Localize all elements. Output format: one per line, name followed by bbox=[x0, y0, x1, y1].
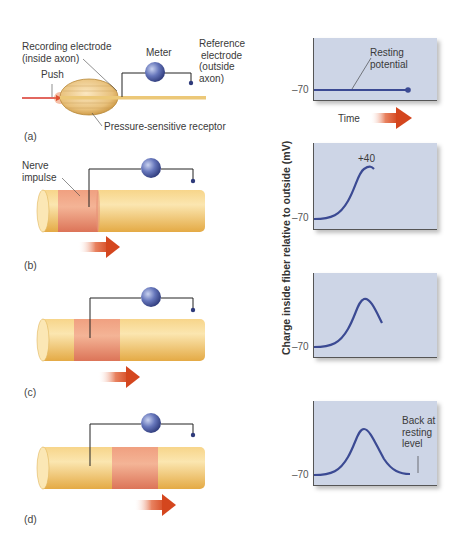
y-tick-a: –70 bbox=[292, 84, 309, 95]
recording-electrode-line1: Recording electrode bbox=[22, 41, 112, 53]
graph-c bbox=[313, 273, 437, 358]
time-label: Time bbox=[338, 113, 360, 125]
panel-d-drawing bbox=[37, 413, 205, 516]
y-axis-label: Charge inside fiber relative to outside … bbox=[280, 141, 292, 355]
meter-label: Meter bbox=[146, 47, 172, 59]
nerve-impulse-region bbox=[58, 190, 98, 232]
panel-label-b: (b) bbox=[24, 259, 37, 271]
axon-fiber bbox=[60, 96, 206, 100]
meter-icon bbox=[141, 287, 161, 307]
y-tick-d: –70 bbox=[292, 469, 309, 480]
nerve-impulse-line1: Nerve bbox=[22, 160, 56, 172]
graph-d: Back at resting level bbox=[313, 401, 437, 486]
graph-c-trace bbox=[314, 273, 437, 357]
panel-label-c: (c) bbox=[24, 386, 36, 398]
resting-potential-line2: potential bbox=[370, 59, 408, 71]
recording-electrode-label: Recording electrode (inside axon) bbox=[22, 41, 112, 64]
y-tick-c: –70 bbox=[292, 341, 309, 352]
direction-arrow bbox=[78, 242, 110, 252]
time-arrow-head bbox=[396, 107, 412, 129]
meter-icon bbox=[141, 413, 161, 433]
recording-electrode-line2: (inside axon) bbox=[22, 53, 112, 65]
back-at-resting-line1: Back at bbox=[402, 415, 435, 427]
peak-label: +40 bbox=[358, 153, 375, 165]
back-at-resting-label: Back at resting level bbox=[402, 415, 435, 450]
nerve-impulse-region bbox=[112, 447, 158, 489]
reference-electrode-line3: (outside bbox=[199, 61, 245, 73]
nerve-impulse-line2: impulse bbox=[22, 172, 56, 184]
panel-b-drawing bbox=[37, 158, 205, 258]
meter-icon bbox=[145, 62, 165, 82]
time-arrow bbox=[370, 113, 398, 123]
direction-arrow bbox=[134, 500, 166, 510]
y-tick-b: –70 bbox=[292, 212, 309, 223]
direction-arrow bbox=[98, 372, 130, 382]
reference-electrode-tip bbox=[189, 81, 193, 85]
receptor-label: Pressure-sensitive receptor bbox=[104, 121, 226, 133]
reference-electrode-line1: Reference bbox=[199, 38, 245, 50]
graph-b-trace bbox=[314, 143, 437, 229]
resting-potential-line1: Resting bbox=[370, 47, 408, 59]
nerve-impulse-label: Nerve impulse bbox=[22, 160, 56, 183]
back-at-resting-line2: resting bbox=[402, 427, 435, 439]
reference-electrode-line4: axon) bbox=[199, 73, 245, 85]
panel-c-drawing bbox=[37, 287, 205, 388]
nerve-impulse-region bbox=[74, 319, 120, 361]
push-label: Push bbox=[41, 69, 64, 81]
panel-label-d: (d) bbox=[24, 513, 37, 525]
graph-a: Resting potential bbox=[313, 38, 437, 101]
meter-icon bbox=[141, 158, 161, 178]
graph-b: +40 bbox=[313, 143, 437, 230]
back-at-resting-line3: level bbox=[402, 438, 435, 450]
reference-electrode-label: Reference electrode (outside axon) bbox=[199, 38, 245, 84]
axon-cylinder bbox=[40, 319, 205, 361]
reference-electrode-line2: electrode bbox=[199, 50, 245, 62]
panel-label-a: (a) bbox=[24, 130, 37, 142]
resting-potential-label: Resting potential bbox=[370, 47, 408, 70]
